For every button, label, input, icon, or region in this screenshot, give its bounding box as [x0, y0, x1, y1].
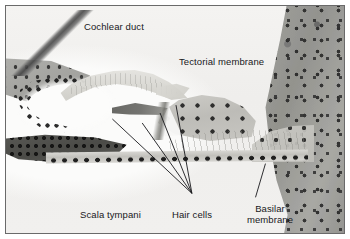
label-cochlear-duct: Cochlear duct [84, 21, 144, 32]
label-basilar-membrane-line2: membrane [247, 214, 293, 225]
label-tectorial-membrane: Tectorial membrane [179, 56, 264, 67]
leader-line-hair-cells-1 [112, 119, 192, 193]
leader-lines [6, 6, 344, 233]
label-basilar-membrane-line1: Basilar [255, 203, 285, 214]
leader-line-hair-cells-2 [142, 123, 192, 193]
leader-line-tectorial [114, 59, 178, 82]
figure-container: Cochlear duct Tectorial membrane Scala t… [0, 0, 350, 239]
label-hair-cells: Hair cells [172, 209, 212, 220]
label-basilar-membrane: Basilar membrane [238, 203, 302, 225]
leader-line-basilar [256, 164, 266, 198]
micrograph-plate: Cochlear duct Tectorial membrane Scala t… [5, 5, 345, 234]
label-scala-tympani: Scala tympani [80, 209, 141, 220]
leader-line-hair-cells-3 [160, 113, 192, 193]
